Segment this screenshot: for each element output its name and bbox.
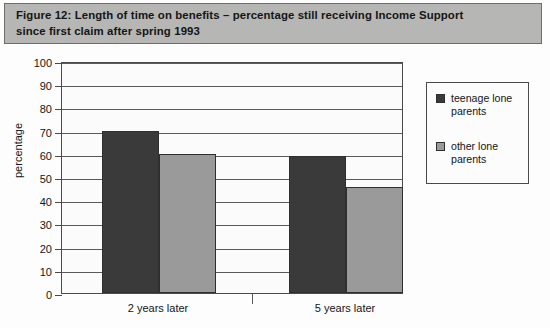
gridline: [62, 109, 402, 110]
y-axis-tick-label: 0: [46, 289, 52, 301]
chart-legend: teenage lone parents other lone parents: [426, 82, 529, 184]
y-axis-tick-label: 60: [40, 150, 52, 162]
gridline: [62, 63, 402, 64]
x-axis-category-label: 2 years later: [128, 302, 189, 314]
y-axis-title: percentage: [12, 123, 24, 178]
chart-canvas: percentage 0102030405060708090100 2 year…: [0, 46, 550, 328]
figure-title-line-2: since first claim after spring 1993: [16, 24, 533, 40]
bar-5-years-later-teenage-lone-parents: [289, 156, 346, 293]
y-axis-tick-label: 80: [40, 103, 52, 115]
legend-label: other lone parents: [451, 140, 523, 167]
x-axis-category-label: 5 years later: [315, 302, 376, 314]
legend-item-teenage-lone-parents: teenage lone parents: [436, 92, 523, 119]
y-axis-tick: [55, 133, 62, 134]
y-axis-tick-label: 40: [40, 196, 52, 208]
y-axis-tick: [55, 272, 62, 273]
y-axis-tick: [55, 249, 62, 250]
figure-container: Figure 12: Length of time on benefits – …: [0, 0, 550, 328]
y-axis-tick: [55, 156, 62, 157]
figure-title-band: Figure 12: Length of time on benefits – …: [4, 3, 542, 44]
legend-label: teenage lone parents: [451, 92, 523, 119]
y-axis-tick: [55, 63, 62, 64]
y-axis-tick: [55, 225, 62, 226]
y-axis-tick: [55, 295, 62, 296]
bar-5-years-later-other-lone-parents: [346, 187, 403, 293]
y-axis-tick-label: 70: [40, 127, 52, 139]
legend-item-other-lone-parents: other lone parents: [436, 140, 523, 167]
y-axis-tick: [55, 86, 62, 87]
y-axis-tick: [55, 109, 62, 110]
bar-2-years-later-other-lone-parents: [159, 154, 216, 293]
y-axis-tick-label: 100: [34, 57, 52, 69]
gridline: [62, 86, 402, 87]
y-axis-tick-label: 20: [40, 243, 52, 255]
page-title: Figure 12: Length of time on benefits – …: [16, 8, 533, 39]
figure-title-line-1: Figure 12: Length of time on benefits – …: [16, 8, 533, 24]
y-axis-tick-label: 30: [40, 219, 52, 231]
y-axis-tick-label: 10: [40, 266, 52, 278]
legend-swatch-icon: [436, 94, 445, 103]
y-axis-tick: [55, 179, 62, 180]
bar-2-years-later-teenage-lone-parents: [102, 131, 159, 293]
plot-area: 0102030405060708090100: [61, 62, 403, 294]
y-axis-tick: [55, 202, 62, 203]
y-axis-tick-label: 90: [40, 80, 52, 92]
legend-swatch-icon: [436, 142, 445, 151]
y-axis-tick-label: 50: [40, 173, 52, 185]
x-axis-category-divider-tick: [252, 294, 253, 304]
